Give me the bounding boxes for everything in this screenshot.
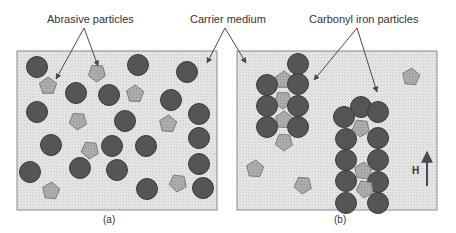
- iron-particle: [336, 129, 357, 150]
- iron-particle: [334, 107, 355, 128]
- iron-particle: [257, 117, 278, 138]
- panel-a-caption: (a): [103, 214, 115, 225]
- iron-particle: [66, 83, 87, 104]
- iron-particle: [368, 193, 389, 214]
- iron-particle: [288, 54, 309, 75]
- iron-particle: [41, 135, 62, 156]
- carbonyl-iron-label: Carbonyl iron particles: [309, 13, 418, 25]
- iron-particle: [336, 150, 357, 171]
- field-label: H: [412, 165, 419, 176]
- iron-particle: [70, 158, 91, 179]
- iron-particle: [189, 154, 210, 175]
- iron-particle: [336, 193, 357, 214]
- iron-particle: [288, 117, 309, 138]
- iron-particle: [27, 57, 48, 78]
- iron-particle: [257, 96, 278, 117]
- iron-particle: [128, 55, 149, 76]
- diagram-canvas: [0, 0, 456, 233]
- iron-particle: [288, 96, 309, 117]
- iron-particle: [368, 128, 389, 149]
- iron-particle: [27, 102, 48, 123]
- iron-particle: [137, 179, 158, 200]
- panel-b: [237, 51, 437, 214]
- iron-particle: [189, 104, 210, 125]
- iron-particle: [368, 102, 389, 123]
- iron-particle: [102, 136, 123, 157]
- iron-particle: [136, 136, 157, 157]
- iron-particle: [189, 128, 210, 149]
- iron-particle: [115, 111, 136, 132]
- panel-b-caption: (b): [334, 214, 346, 225]
- iron-particle: [177, 62, 198, 83]
- carrier-medium-label: Carrier medium: [190, 13, 266, 25]
- iron-particle: [368, 150, 389, 171]
- iron-particle: [99, 85, 120, 106]
- iron-particle: [288, 74, 309, 95]
- iron-particle: [193, 178, 214, 199]
- iron-particle: [161, 90, 182, 111]
- iron-particle: [336, 171, 357, 192]
- panel-a: [17, 51, 217, 210]
- iron-particle: [107, 160, 128, 181]
- abrasive-particles-label: Abrasive particles: [47, 13, 134, 25]
- iron-particle: [257, 75, 278, 96]
- iron-particle: [20, 162, 41, 183]
